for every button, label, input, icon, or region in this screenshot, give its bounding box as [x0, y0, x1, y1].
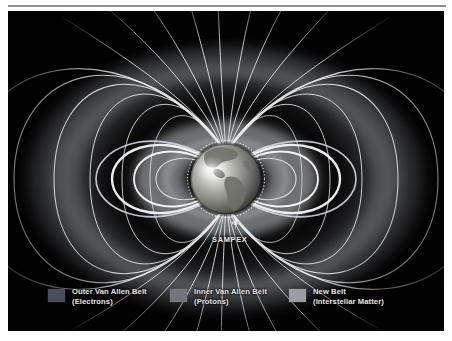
legend-item-outer-van-allen-belt[interactable]: Outer Van Allen Belt (Electrons): [48, 287, 147, 307]
legend-label-new-belt-line2: (Interstellar Matter): [313, 297, 384, 307]
satellite-icon: [231, 217, 240, 229]
legend-label-outer-belt: Outer Van Allen Belt (Electrons): [72, 287, 147, 307]
legend-label-inner-belt: Inner Van Allen Belt (Protons): [194, 287, 267, 307]
legend-swatch-inner-belt: [170, 289, 187, 302]
legend-label-inner-belt-line1: Inner Van Allen Belt: [194, 287, 267, 296]
legend-label-new-belt: New Belt (Interstellar Matter): [313, 287, 384, 307]
legend-label-outer-belt-line2: (Electrons): [72, 297, 147, 307]
sampex-callout: SAMPEX: [204, 207, 274, 249]
corner-vignette: [8, 11, 444, 331]
legend-swatch-new-belt: [289, 289, 306, 302]
figure-frame: SAMPEX Outer Van Allen Belt (Electrons) …: [0, 0, 452, 341]
legend-label-new-belt-line1: New Belt: [313, 287, 346, 296]
magnetosphere-scene: [8, 11, 444, 331]
magnetosphere-diagram-plate: SAMPEX Outer Van Allen Belt (Electrons) …: [8, 11, 444, 331]
legend-label-inner-belt-line2: (Protons): [194, 297, 267, 307]
sampex-label: SAMPEX: [212, 235, 247, 244]
legend-swatch-outer-belt: [48, 289, 65, 302]
legend-item-new-belt[interactable]: New Belt (Interstellar Matter): [289, 287, 384, 307]
legend-label-outer-belt-line1: Outer Van Allen Belt: [72, 287, 147, 296]
top-divider-rule: [8, 5, 446, 7]
legend-item-inner-van-allen-belt[interactable]: Inner Van Allen Belt (Protons): [170, 287, 267, 307]
